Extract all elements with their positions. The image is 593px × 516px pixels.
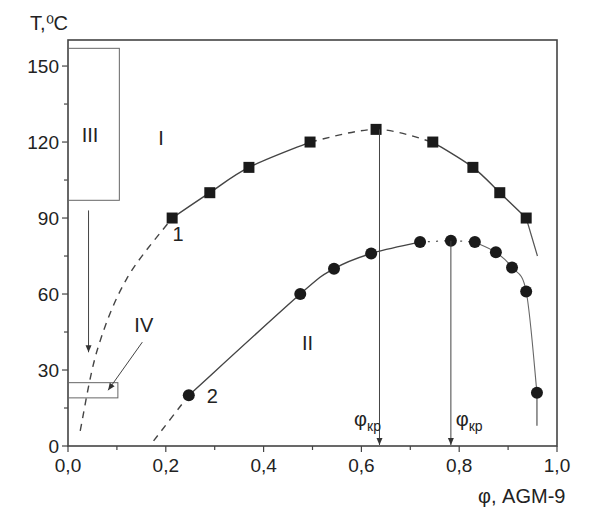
- label-iii: III: [82, 124, 99, 146]
- series-2-dashed-extension: [154, 395, 189, 441]
- circle-marker: [490, 246, 502, 258]
- y-tick-label: 30: [38, 360, 59, 381]
- x-tick-label: 0,2: [153, 455, 179, 476]
- series-1-line-right: [433, 142, 526, 218]
- square-marker: [204, 187, 215, 198]
- circle-marker: [531, 387, 543, 399]
- series-2-line-right: [475, 242, 537, 393]
- series-1-tail: [526, 218, 537, 256]
- phi-critical-arrow-head: [448, 438, 454, 445]
- circle-marker: [183, 389, 195, 401]
- series-1-line-left: [172, 142, 310, 218]
- circle-marker: [520, 285, 532, 297]
- phi-critical-subscript: кр: [367, 418, 381, 434]
- circle-marker: [414, 236, 426, 248]
- x-tick-label: 0,8: [446, 455, 472, 476]
- series-lines: [80, 129, 537, 441]
- label-2: 2: [207, 385, 218, 407]
- square-marker: [494, 187, 505, 198]
- y-tick-label: 120: [27, 132, 59, 153]
- arrow-2: [108, 342, 142, 390]
- x-tick-label: 0,6: [348, 455, 374, 476]
- phi-critical-label: φкр: [354, 408, 381, 434]
- chart-canvas: 0,00,20,40,60,81,00306090120150 IIIIIIIV…: [0, 0, 593, 516]
- plot-border: [68, 40, 557, 446]
- arrow-1-head: [86, 345, 92, 352]
- circle-marker: [469, 236, 481, 248]
- series-markers: [167, 124, 543, 401]
- square-marker: [305, 137, 316, 148]
- y-tick-label: 150: [27, 56, 59, 77]
- phi-critical-subscript: кр: [469, 418, 483, 434]
- axis-ticks: 0,00,20,40,60,81,00306090120150: [27, 56, 570, 476]
- phi-critical-arrow-head: [376, 438, 382, 445]
- y-axis-title: T,⁰C: [30, 12, 68, 34]
- phi-critical-label: φкр: [456, 408, 483, 434]
- x-tick-label: 0,4: [250, 455, 277, 476]
- x-tick-label: 1,0: [544, 455, 570, 476]
- label-ii: II: [302, 332, 313, 354]
- series-2-line-left: [189, 242, 420, 395]
- square-marker: [243, 162, 254, 173]
- y-tick-label: 60: [38, 284, 59, 305]
- annotations: IIIIIIIV12φкрφкр: [82, 124, 483, 445]
- plot-frame: [68, 40, 557, 446]
- label-1: 1: [172, 223, 183, 245]
- circle-marker: [328, 263, 340, 275]
- region-boxes: [68, 48, 119, 398]
- y-tick-label: 90: [38, 208, 59, 229]
- arrow-2-head: [108, 383, 115, 390]
- square-marker: [427, 137, 438, 148]
- square-marker: [467, 162, 478, 173]
- phase-diagram-chart: 0,00,20,40,60,81,00306090120150 IIIIIIIV…: [0, 0, 593, 516]
- x-axis-title: φ, AGM-9: [478, 485, 565, 507]
- y-tick-label: 0: [48, 436, 59, 457]
- label-iv: IV: [134, 314, 154, 336]
- circle-marker: [365, 247, 377, 259]
- label-i: I: [158, 127, 164, 149]
- circle-marker: [506, 261, 518, 273]
- square-marker: [521, 213, 532, 224]
- series-1-dashed-extension: [80, 218, 172, 431]
- circle-marker: [294, 288, 306, 300]
- x-tick-label: 0,0: [55, 455, 81, 476]
